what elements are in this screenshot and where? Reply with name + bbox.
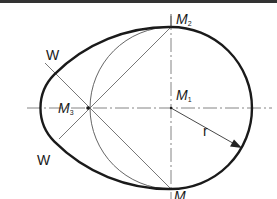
label-m1: M1 bbox=[176, 88, 192, 103]
label-w-top: W bbox=[46, 48, 59, 62]
label-m2: M2 bbox=[176, 12, 192, 27]
m3-point bbox=[86, 106, 90, 110]
label-w-bottom: W bbox=[37, 153, 50, 167]
construction-line-m-to-w bbox=[45, 63, 171, 189]
label-m-bottom: M bbox=[174, 189, 186, 199]
m1-point bbox=[170, 107, 172, 109]
label-radius: r bbox=[203, 124, 208, 138]
label-m3: M3 bbox=[58, 101, 74, 116]
radius-arrowhead bbox=[230, 140, 242, 149]
egg-curve-diagram bbox=[0, 0, 277, 199]
construction-line-m2-to-w bbox=[59, 27, 171, 139]
